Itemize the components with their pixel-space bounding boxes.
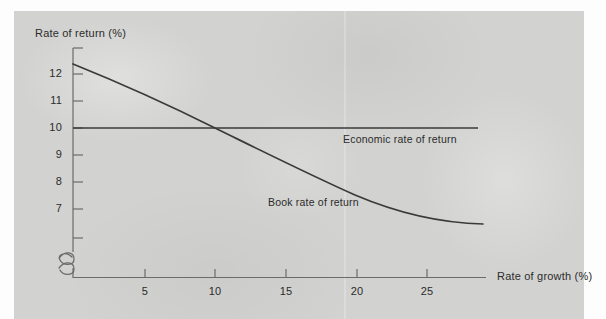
x-tick-label-25: 25 — [417, 285, 437, 297]
y-tick-label-7: 7 — [40, 202, 62, 214]
y-tick-label-11: 11 — [40, 94, 62, 106]
x-tick-label-5: 5 — [135, 285, 155, 297]
x-tick-label-20: 20 — [347, 285, 367, 297]
y-axis-title: Rate of return (%) — [35, 27, 126, 39]
x-axis-title: Rate of growth (%) — [497, 270, 592, 282]
y-tick-label-9: 9 — [40, 148, 62, 160]
x-tick-label-10: 10 — [205, 285, 225, 297]
series-annotation-economic-rate-of-return: Economic rate of return — [343, 133, 457, 145]
y-tick-label-8: 8 — [40, 175, 62, 187]
chart-figure: Rate of return (%) Rate of growth (%) 12… — [0, 0, 606, 319]
y-tick-label-10: 10 — [40, 121, 62, 133]
y-tick-label-12: 12 — [40, 67, 62, 79]
series-annotation-book-rate-of-return: Book rate of return — [268, 196, 359, 208]
x-tick-label-15: 15 — [276, 285, 296, 297]
